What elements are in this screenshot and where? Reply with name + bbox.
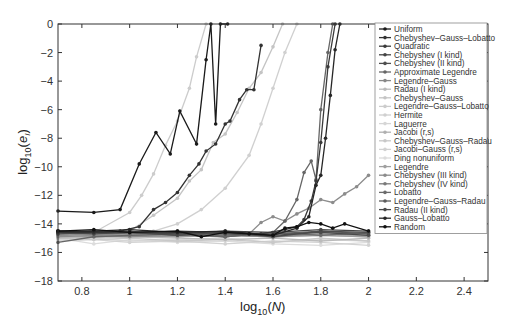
data-point bbox=[247, 232, 251, 236]
data-point bbox=[200, 208, 204, 212]
data-point bbox=[188, 86, 192, 90]
data-point bbox=[168, 152, 172, 156]
data-point bbox=[326, 65, 330, 69]
y-tick-label: −18 bbox=[34, 275, 53, 287]
data-point bbox=[188, 174, 192, 178]
data-point bbox=[283, 219, 287, 223]
x-tick-label: 1.8 bbox=[313, 285, 328, 297]
x-tick-label: 2.2 bbox=[409, 285, 424, 297]
x-axis-label: log10(N) bbox=[240, 299, 285, 317]
data-point bbox=[200, 168, 204, 172]
data-point bbox=[331, 201, 335, 205]
y-tick-label: −6 bbox=[40, 104, 53, 116]
data-point bbox=[152, 214, 156, 218]
data-point bbox=[178, 109, 182, 113]
data-point bbox=[252, 88, 256, 92]
x-tick-label: 0.8 bbox=[74, 285, 89, 297]
data-point bbox=[223, 132, 227, 136]
data-point bbox=[259, 44, 263, 48]
data-point bbox=[223, 122, 227, 126]
data-point bbox=[302, 171, 306, 175]
x-tick-label: 2.4 bbox=[456, 285, 471, 297]
data-point bbox=[176, 191, 180, 195]
data-point bbox=[333, 48, 337, 52]
data-point bbox=[128, 231, 132, 235]
y-tick-label: −10 bbox=[34, 161, 53, 173]
data-point bbox=[295, 198, 299, 202]
plot-series bbox=[56, 22, 370, 247]
data-point bbox=[283, 226, 287, 230]
data-point bbox=[200, 235, 204, 239]
data-point bbox=[367, 229, 371, 233]
data-point bbox=[367, 244, 371, 248]
series-line bbox=[56, 22, 208, 234]
data-point bbox=[176, 222, 180, 226]
data-point bbox=[319, 228, 323, 232]
data-point bbox=[319, 108, 323, 112]
data-point bbox=[92, 228, 96, 232]
data-point bbox=[188, 179, 192, 183]
data-point bbox=[154, 131, 158, 135]
data-point bbox=[259, 122, 263, 126]
data-point bbox=[309, 159, 313, 163]
legend-label: Random bbox=[394, 223, 425, 232]
data-point bbox=[152, 208, 156, 212]
x-tick-label: 1.6 bbox=[265, 285, 280, 297]
data-point bbox=[319, 222, 323, 226]
data-point bbox=[329, 94, 333, 98]
series-line bbox=[56, 22, 229, 214]
data-point bbox=[164, 201, 168, 205]
data-point bbox=[295, 212, 299, 216]
y-tick-label: −2 bbox=[40, 47, 53, 59]
data-point bbox=[319, 174, 323, 178]
data-point bbox=[204, 149, 208, 153]
data-point bbox=[259, 71, 263, 75]
x-tick-label: 1.4 bbox=[218, 285, 233, 297]
data-point bbox=[195, 55, 199, 59]
y-tick-label: −16 bbox=[34, 246, 53, 258]
y-axis-label: log10(eI) bbox=[15, 129, 33, 175]
data-point bbox=[152, 172, 156, 176]
data-point bbox=[204, 58, 208, 62]
y-tick-label: −12 bbox=[34, 189, 53, 201]
data-point bbox=[176, 229, 180, 233]
data-point bbox=[283, 51, 287, 55]
data-point bbox=[223, 242, 227, 246]
data-point bbox=[326, 51, 330, 55]
data-point bbox=[214, 122, 218, 126]
data-point bbox=[355, 185, 359, 189]
data-point bbox=[324, 136, 328, 140]
data-point bbox=[238, 98, 242, 102]
data-point bbox=[92, 211, 96, 215]
y-tick-label: 0 bbox=[47, 18, 53, 30]
data-point bbox=[343, 192, 347, 196]
y-tick-label: −4 bbox=[40, 75, 53, 87]
data-point bbox=[214, 142, 218, 146]
data-point bbox=[319, 198, 323, 202]
data-point bbox=[140, 194, 144, 198]
data-point bbox=[271, 215, 275, 219]
y-tick-label: −8 bbox=[40, 132, 53, 144]
x-tick-label: 2 bbox=[365, 285, 371, 297]
data-point bbox=[128, 241, 132, 245]
data-point bbox=[307, 221, 311, 225]
data-point bbox=[271, 234, 275, 238]
data-point bbox=[176, 196, 180, 200]
data-point bbox=[307, 215, 311, 219]
data-point bbox=[228, 119, 232, 123]
x-tick-label: 1.2 bbox=[170, 285, 185, 297]
data-point bbox=[247, 154, 251, 158]
data-point bbox=[118, 208, 122, 212]
data-point bbox=[331, 226, 335, 230]
series-line bbox=[56, 22, 284, 235]
data-point bbox=[367, 234, 371, 238]
series-line bbox=[56, 22, 298, 240]
data-point bbox=[137, 225, 141, 229]
data-point bbox=[367, 174, 371, 178]
series-line bbox=[56, 174, 370, 239]
data-point bbox=[223, 186, 227, 190]
data-point bbox=[295, 225, 299, 229]
data-point bbox=[197, 162, 201, 166]
data-point bbox=[314, 184, 318, 188]
data-point bbox=[319, 141, 323, 145]
